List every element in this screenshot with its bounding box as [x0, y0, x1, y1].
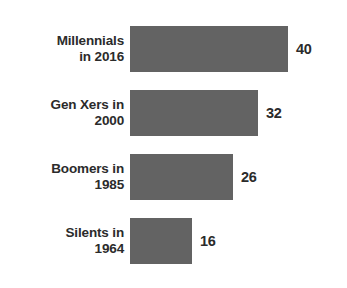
category-label-line2: in 2016	[8, 49, 124, 65]
bar-track	[130, 218, 192, 264]
category-label-line1: Silents in	[8, 225, 124, 241]
bar-millennials-in-2016[interactable]	[130, 26, 288, 72]
category-label: Boomers in 1985	[8, 161, 124, 193]
bar-row: Boomers in 1985 26	[0, 154, 347, 200]
plot-area: Millennials in 2016 40 Gen Xers in 2000 …	[0, 0, 347, 288]
category-label-line2: 2000	[8, 113, 124, 129]
category-label-line1: Boomers in	[8, 161, 124, 177]
category-label-line1: Millennials	[8, 33, 124, 49]
bar-chart-figure: Millennials in 2016 40 Gen Xers in 2000 …	[0, 0, 347, 288]
bar-row: Gen Xers in 2000 32	[0, 90, 347, 136]
bar-gen-xers-in-2000[interactable]	[130, 90, 258, 136]
bar-row: Millennials in 2016 40	[0, 26, 347, 72]
bar-boomers-in-1985[interactable]	[130, 154, 233, 200]
category-label: Silents in 1964	[8, 225, 124, 257]
category-label-line1: Gen Xers in	[8, 97, 124, 113]
bar-row: Silents in 1964 16	[0, 218, 347, 264]
bar-value-label: 40	[296, 41, 312, 57]
bar-track	[130, 154, 233, 200]
category-label-line2: 1964	[8, 241, 124, 257]
bar-value-label: 32	[266, 105, 282, 121]
bar-silents-in-1964[interactable]	[130, 218, 192, 264]
bar-track	[130, 90, 258, 136]
category-label: Gen Xers in 2000	[8, 97, 124, 129]
bar-track	[130, 26, 288, 72]
bar-value-label: 16	[200, 233, 216, 249]
bar-value-label: 26	[241, 169, 257, 185]
category-label: Millennials in 2016	[8, 33, 124, 65]
category-label-line2: 1985	[8, 177, 124, 193]
